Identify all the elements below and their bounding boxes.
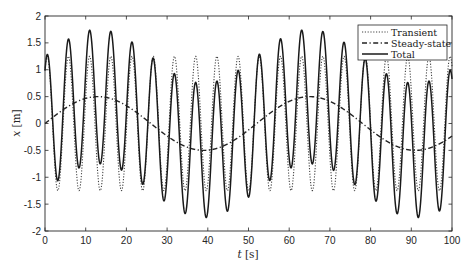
y-tick-label: -2 (32, 226, 41, 237)
y-tick-label: -0.5 (24, 145, 42, 156)
legend-label-transient: Transient (391, 27, 437, 38)
legend: Transient Steady-state Total (358, 25, 451, 60)
y-tick-label: 0.5 (27, 91, 41, 102)
x-tick-label: 80 (365, 235, 377, 246)
x-tick-label: 90 (406, 235, 418, 246)
x-axis-label: t [s] (237, 248, 258, 260)
x-tick-label: 0 (42, 235, 48, 246)
y-tick-label: 1.5 (27, 37, 41, 48)
x-tick-label: 70 (324, 235, 336, 246)
x-tick-label: 20 (121, 235, 133, 246)
y-axis-label: x [m] (10, 109, 22, 136)
x-tick-label: 40 (202, 235, 214, 246)
y-tick-label: -1 (32, 172, 41, 183)
x-tick-label: 10 (80, 235, 92, 246)
legend-label-total: Total (391, 49, 415, 60)
y-tick-label: 1 (35, 64, 41, 75)
y-axis-unit: [m] (10, 109, 22, 131)
line-chart: 0102030405060708090100 -2-1.5-1-0.500.51… (0, 0, 469, 268)
x-tick-label: 30 (162, 235, 174, 246)
x-axis-unit: [s] (242, 248, 259, 260)
y-tick-label: -1.5 (24, 199, 42, 210)
y-tick-label: 2 (35, 11, 41, 22)
x-tick-label: 100 (444, 235, 461, 246)
legend-label-steady-state: Steady-state (391, 38, 451, 49)
x-tick-label: 60 (284, 235, 296, 246)
y-tick-label: 0 (35, 118, 41, 129)
x-tick-label: 50 (243, 235, 255, 246)
